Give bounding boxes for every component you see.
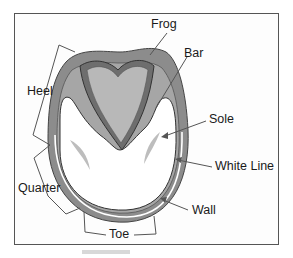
label-heel: Heel bbox=[27, 85, 53, 98]
label-bar: Bar bbox=[184, 47, 203, 60]
hoof-diagram bbox=[0, 0, 293, 258]
label-sole: Sole bbox=[209, 113, 234, 126]
label-quarter: Quarter bbox=[18, 182, 60, 195]
caption-placeholder-bar bbox=[82, 250, 130, 254]
label-frog: Frog bbox=[151, 18, 177, 31]
label-wall: Wall bbox=[192, 204, 216, 217]
label-toe: Toe bbox=[109, 228, 129, 241]
label-white-line: White Line bbox=[215, 160, 274, 173]
